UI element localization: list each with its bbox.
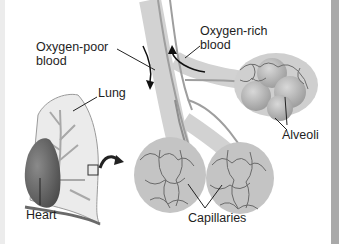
label-heart: Heart [26,208,57,222]
label-alveoli: Alveoli [282,128,319,142]
label-lung: Lung [98,86,126,100]
label-oxygen-poor-blood: Oxygen-poor blood [36,40,108,68]
label-capillaries: Capillaries [188,211,246,225]
alveoli-cluster [234,53,318,121]
capillary-clusters [134,137,274,214]
label-oxygen-rich-blood: Oxygen-rich blood [200,24,267,52]
